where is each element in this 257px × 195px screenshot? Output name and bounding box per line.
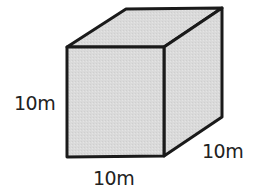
cube-front-face (67, 47, 164, 157)
width-label: 10m (93, 167, 134, 189)
height-label: 10m (14, 92, 55, 114)
cube-diagram: 10m 10m 10m (0, 0, 257, 195)
depth-label: 10m (202, 140, 243, 162)
